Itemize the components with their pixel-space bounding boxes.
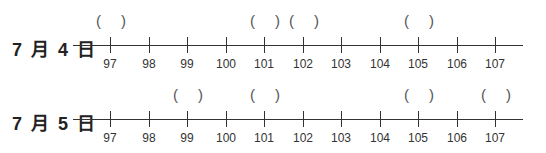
tick-label: 107 <box>475 57 515 71</box>
tick-label: 103 <box>321 57 361 71</box>
answer-blank-bracket[interactable]: () <box>250 12 280 29</box>
tick-label: 100 <box>206 131 246 145</box>
tick-label: 104 <box>360 131 400 145</box>
tick-mark <box>380 111 381 127</box>
tick-label: 98 <box>129 57 169 71</box>
close-paren: ) <box>506 86 511 103</box>
tick-mark <box>110 111 111 127</box>
answer-blank-bracket[interactable]: () <box>404 86 434 103</box>
tick-mark <box>226 37 227 53</box>
tick-mark <box>187 37 188 53</box>
close-paren: ) <box>121 12 126 29</box>
answer-blank-bracket[interactable]: () <box>481 86 511 103</box>
date-label: 7 月 4 日 <box>12 35 97 61</box>
tick-mark <box>495 37 496 53</box>
close-paren: ) <box>314 12 319 29</box>
open-paren: ( <box>404 12 409 29</box>
tick-label: 105 <box>398 57 438 71</box>
tick-label: 102 <box>283 131 323 145</box>
tick-label: 101 <box>244 57 284 71</box>
open-paren: ( <box>404 86 409 103</box>
tick-mark <box>457 37 458 53</box>
number-line-row: 7 月 5 日979899100101102103104105106107()(… <box>0 74 546 144</box>
answer-blank-bracket[interactable]: () <box>96 12 126 29</box>
tick-label: 99 <box>167 131 207 145</box>
close-paren: ) <box>429 12 434 29</box>
date-label: 7 月 5 日 <box>12 109 97 135</box>
tick-label: 105 <box>398 131 438 145</box>
open-paren: ( <box>481 86 486 103</box>
answer-blank-bracket[interactable]: () <box>250 86 280 103</box>
tick-mark <box>110 37 111 53</box>
tick-mark <box>380 37 381 53</box>
tick-label: 106 <box>437 57 477 71</box>
tick-mark <box>264 111 265 127</box>
tick-mark <box>495 111 496 127</box>
tick-mark <box>226 111 227 127</box>
number-line-axis <box>73 45 523 46</box>
tick-mark <box>149 37 150 53</box>
tick-label: 107 <box>475 131 515 145</box>
open-paren: ( <box>250 12 255 29</box>
tick-mark <box>187 111 188 127</box>
tick-mark <box>303 37 304 53</box>
tick-mark <box>341 111 342 127</box>
number-line-axis <box>73 119 523 120</box>
number-line-row: 7 月 4 日979899100101102103104105106107()(… <box>0 0 546 70</box>
open-paren: ( <box>96 12 101 29</box>
answer-blank-bracket[interactable]: () <box>173 86 203 103</box>
tick-label: 97 <box>90 57 130 71</box>
tick-label: 104 <box>360 57 400 71</box>
answer-blank-bracket[interactable]: () <box>404 12 434 29</box>
tick-label: 102 <box>283 57 323 71</box>
tick-mark <box>264 37 265 53</box>
tick-mark <box>418 37 419 53</box>
close-paren: ) <box>275 12 280 29</box>
tick-label: 101 <box>244 131 284 145</box>
tick-label: 97 <box>90 131 130 145</box>
close-paren: ) <box>429 86 434 103</box>
tick-mark <box>303 111 304 127</box>
tick-label: 103 <box>321 131 361 145</box>
tick-mark <box>457 111 458 127</box>
tick-label: 98 <box>129 131 169 145</box>
close-paren: ) <box>198 86 203 103</box>
open-paren: ( <box>289 12 294 29</box>
close-paren: ) <box>275 86 280 103</box>
open-paren: ( <box>173 86 178 103</box>
open-paren: ( <box>250 86 255 103</box>
answer-blank-bracket[interactable]: () <box>289 12 319 29</box>
tick-label: 100 <box>206 57 246 71</box>
tick-label: 106 <box>437 131 477 145</box>
tick-mark <box>341 37 342 53</box>
tick-mark <box>418 111 419 127</box>
tick-mark <box>149 111 150 127</box>
tick-label: 99 <box>167 57 207 71</box>
